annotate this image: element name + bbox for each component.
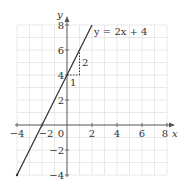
y-axis-label: y [56, 9, 63, 20]
run-label: 1 [70, 77, 76, 88]
graph: −4 −2 0 2 4 6 8 x 8 6 4 2 −2 −4 y 1 2 y … [0, 0, 186, 190]
y-tick-label: 4 [58, 70, 64, 81]
x-axis-label: x [172, 128, 178, 139]
rise-label: 2 [82, 57, 88, 68]
y-tick-label: −4 [49, 170, 64, 181]
y-tick-label: 6 [58, 45, 64, 56]
equation-label: y = 2x + 4 [93, 26, 148, 37]
x-axis-arrow-icon [169, 123, 175, 128]
axes [15, 20, 172, 177]
x-tick-label: 2 [89, 128, 95, 139]
origin-label: 0 [58, 128, 64, 139]
x-tick-label: 6 [139, 128, 145, 139]
line-endpoint [16, 174, 18, 176]
grid [17, 25, 167, 175]
y-tick-label: 8 [58, 20, 64, 31]
x-tick-label: −2 [39, 128, 54, 139]
y-axis-arrow-icon [65, 16, 70, 22]
y-tick-label: −2 [49, 145, 64, 156]
x-tick-label: 4 [114, 128, 120, 139]
y-tick-label: 2 [58, 95, 64, 106]
x-tick-label: 8 [162, 128, 168, 139]
x-tick-label: −4 [10, 128, 25, 139]
